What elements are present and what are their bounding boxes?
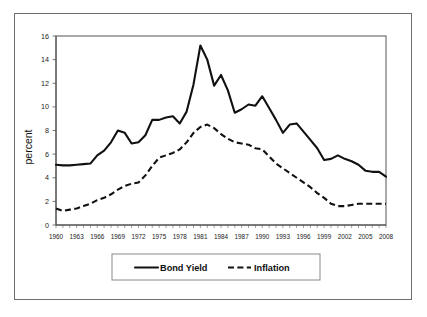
x-axis-tick-labels: 1960196319661969197219751978198119841987… [49,233,394,240]
y-tick-label: 12 [41,79,49,88]
y-tick-label: 16 [41,32,49,41]
line-chart: percent 0246810121416 196019631966196919… [15,14,411,299]
y-axis-tick-marks [53,36,57,225]
series-line-inflation [56,125,386,211]
x-tick-label: 1981 [193,233,208,240]
legend-label-bond-yield: Bond Yield [160,263,207,273]
y-tick-label: 4 [45,173,49,182]
y-tick-label: 10 [41,102,49,111]
x-tick-label: 1978 [173,233,188,240]
y-axis-title: percent [22,129,34,164]
x-tick-label: 1993 [276,233,291,240]
y-tick-label: 8 [45,126,49,135]
x-tick-label: 1990 [255,233,270,240]
x-tick-label: 1975 [152,233,167,240]
y-tick-label: 0 [45,221,49,230]
y-tick-label: 2 [45,197,49,206]
x-tick-label: 2002 [338,233,353,240]
x-tick-label: 2005 [358,233,373,240]
figure-root: percent 0246810121416 196019631966196919… [0,0,427,317]
chart-frame: percent 0246810121416 196019631966196919… [14,13,412,300]
x-tick-label: 1996 [296,233,311,240]
y-axis-tick-labels: 0246810121416 [41,32,49,230]
x-tick-label: 1972 [131,233,146,240]
x-tick-label: 1963 [70,233,85,240]
y-tick-label: 6 [45,150,49,159]
x-tick-label: 1969 [111,233,126,240]
chart-legend: Bond Yield Inflation [112,254,320,280]
y-axis-title-group: percent [22,129,34,164]
legend-label-inflation: Inflation [254,263,290,273]
x-tick-label: 1999 [317,233,332,240]
x-tick-label: 2008 [379,233,394,240]
x-tick-label: 1960 [49,233,64,240]
x-tick-label: 1987 [235,233,250,240]
x-tick-label: 1966 [90,233,105,240]
y-tick-label: 14 [41,55,49,64]
x-tick-label: 1984 [214,233,229,240]
series-line-bond-yield [56,45,386,176]
